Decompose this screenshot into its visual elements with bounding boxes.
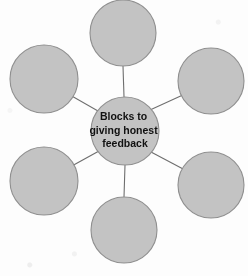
satellite-node-lower-left[interactable] xyxy=(10,147,78,215)
satellite-node-upper-left[interactable] xyxy=(10,45,78,113)
satellite-node-upper-right[interactable] xyxy=(178,48,244,114)
connector-center-top xyxy=(123,66,124,97)
diagram-canvas: Blocks to giving honest feedback xyxy=(0,0,248,276)
spider-diagram: Blocks to giving honest feedback xyxy=(0,0,248,276)
connector-center-upper-left xyxy=(70,95,98,111)
connector-center-upper-right xyxy=(150,94,185,110)
center-label-line-3: feedback xyxy=(102,137,148,149)
satellite-node-top[interactable] xyxy=(90,0,156,66)
connector-center-lower-right xyxy=(151,152,185,170)
satellite-node-lower-right[interactable] xyxy=(178,152,244,218)
connector-center-bottom xyxy=(124,165,125,197)
center-label-line-2: giving honest xyxy=(89,124,158,136)
satellite-node-bottom[interactable] xyxy=(91,197,157,263)
center-label-line-1: Blocks to xyxy=(100,110,147,122)
center-node-group[interactable]: Blocks to giving honest feedback xyxy=(89,97,160,165)
